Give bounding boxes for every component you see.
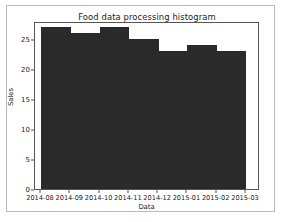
x-tick-label: 2014-11 [114,194,142,202]
y-tick-label: 5 [26,156,30,164]
y-tick-label: 0 [26,186,30,194]
x-tick-mark [127,190,128,193]
x-tick-mark [98,190,99,193]
plot-area [34,22,259,190]
x-tick-mark [186,190,187,193]
x-tick-mark [245,190,246,193]
x-tick-mark [157,190,158,193]
histogram-bar [187,45,217,189]
histogram-bar [70,33,100,189]
y-tick-label: 20 [21,66,30,74]
x-tick-label: 2014-08 [26,194,54,202]
x-tick-mark [215,190,216,193]
y-tick-label: 15 [21,96,30,104]
x-axis-label: Data [34,203,259,211]
histogram-bars [35,23,258,189]
y-tick-label: 25 [21,36,30,44]
x-tick-mark [69,190,70,193]
histogram-bar [217,51,247,189]
x-tick-label: 2014-09 [56,194,84,202]
histogram-bar [158,51,188,189]
y-tick-label: 10 [21,126,30,134]
histogram-bar [100,27,130,189]
histogram-bar [41,27,71,189]
x-tick-label: 2015-03 [231,194,259,202]
x-tick-label: 2014-12 [143,194,171,202]
x-tick-label: 2014-10 [85,194,113,202]
chart-title: Food data processing histogram [34,12,260,22]
x-tick-label: 2015-02 [202,194,230,202]
chart-figure: Food data processing histogram 051015202… [0,0,283,222]
x-tick-mark [40,190,41,193]
histogram-bar [129,39,159,189]
y-axis-label: Sales [7,88,15,106]
x-tick-label: 2015-01 [173,194,201,202]
